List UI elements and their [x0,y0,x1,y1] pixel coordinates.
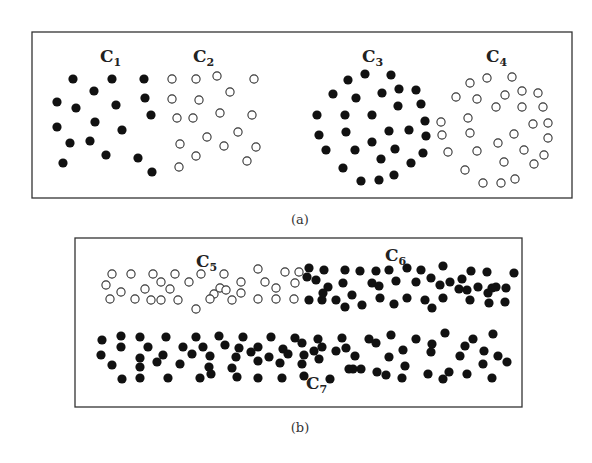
point-c5 [291,279,299,287]
point-c1 [139,74,148,83]
point-c6 [357,300,366,309]
point-c5 [141,285,149,293]
point-c5 [131,295,139,303]
point-c6 [465,295,474,304]
svg-text:C4: C4 [486,46,508,69]
point-c7 [283,349,292,358]
point-c1 [89,86,98,95]
point-c7 [488,329,497,338]
point-c7 [264,352,273,361]
point-c5 [197,270,205,278]
point-c3 [376,154,385,163]
cluster-c2-label: C2 [193,46,214,69]
point-c7 [371,338,380,347]
point-c6 [391,276,400,285]
point-c4 [518,87,526,95]
point-c5 [149,270,157,278]
point-c6 [427,303,436,312]
point-c7 [325,374,334,383]
point-c5 [228,296,236,304]
point-c3 [389,170,398,179]
svg-text:C3: C3 [362,46,383,69]
point-c7 [232,372,241,381]
point-c7 [400,361,409,370]
point-c4 [508,73,516,81]
point-c5 [222,286,230,294]
point-c6 [331,295,340,304]
point-c7 [116,342,125,351]
point-c4 [452,93,460,101]
point-c7 [253,373,262,382]
point-c3 [420,116,429,125]
point-c6 [509,268,518,277]
point-c7 [372,367,381,376]
point-c6 [319,265,328,274]
point-c5 [102,281,110,289]
point-c7 [297,338,306,347]
point-c7 [444,367,453,376]
point-c7 [438,374,447,383]
point-c4 [483,74,491,82]
panel-b: C5 C6 C7 (b) [75,238,522,435]
point-c5 [290,295,298,303]
point-c2 [192,75,200,83]
point-c7 [220,340,229,349]
point-c4 [511,175,519,183]
point-c4 [539,103,547,111]
point-c5 [147,296,155,304]
point-c7 [384,352,393,361]
point-c6 [402,293,411,302]
point-c5 [174,296,182,304]
point-c6 [355,266,364,275]
point-c6 [304,295,313,304]
point-c5 [192,305,200,313]
point-c1 [107,74,116,83]
point-c7 [348,364,357,373]
point-c6 [457,274,466,283]
point-c7 [187,349,196,358]
point-c1 [85,136,94,145]
point-c1 [52,97,61,106]
point-c4 [466,79,474,87]
point-c5 [108,270,116,278]
svg-text:C1: C1 [100,46,121,69]
point-c3 [328,89,337,98]
point-c7 [205,351,214,360]
point-c6 [375,293,384,302]
point-c2 [195,96,203,104]
point-c1 [68,74,77,83]
point-c7 [350,351,359,360]
point-c5 [157,296,165,304]
panel-a: C1 C2 C3 C4 (a) [32,32,572,227]
point-c6 [318,288,327,297]
cluster-c3-label: C3 [362,46,383,69]
point-c6 [374,281,383,290]
point-c7 [331,346,340,355]
point-c6 [435,280,444,289]
point-c3 [377,88,386,97]
point-c7 [493,351,502,360]
cluster-c1-label: C1 [100,46,121,69]
point-c3 [418,148,427,157]
point-c7 [117,374,126,383]
point-c7 [175,359,184,368]
point-c6 [384,265,393,274]
cluster-c4-label: C4 [486,46,508,69]
point-c6 [482,267,491,276]
point-c3 [394,84,403,93]
point-c7 [191,332,200,341]
point-c7 [381,370,390,379]
panel-a-caption: (a) [291,212,309,227]
point-c2 [203,133,211,141]
point-c2 [226,88,234,96]
point-c6 [304,263,313,272]
point-c3 [312,110,321,119]
point-c6 [389,299,398,308]
point-c7 [253,356,262,365]
point-c5 [237,278,245,286]
point-c7 [135,362,144,371]
point-c5 [272,284,280,292]
point-c7 [356,364,365,373]
point-c7 [206,369,215,378]
point-c7 [337,333,346,342]
